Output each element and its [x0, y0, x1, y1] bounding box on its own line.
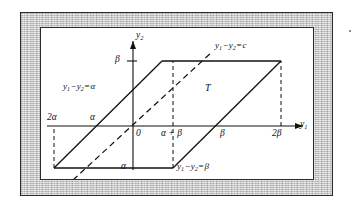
- x-axis-label: y1: [300, 120, 308, 130]
- x-tick-label-beta: β: [220, 129, 225, 139]
- line-y1-minus-y2-equals-beta: [173, 61, 281, 168]
- figure-root: y2 y1 β α 0 2α α α + β β 2β y1−y2=α y1−y…: [0, 0, 354, 212]
- x-tick-label-alpha: α: [90, 113, 95, 123]
- line-y1-minus-y2-equals-alpha: [54, 61, 162, 168]
- equation-label-dashed-line: y1−y2=c: [215, 41, 246, 51]
- figure-plot-panel: y2 y1 β α 0 2α α α + β β 2β y1−y2=α y1−y…: [40, 27, 314, 180]
- plot-canvas: [41, 28, 313, 179]
- y-axis-label: y2: [136, 31, 144, 41]
- y-axis-arrowhead: [130, 41, 136, 49]
- region-label-T: T: [205, 83, 211, 93]
- x-tick-label-two-beta: 2β: [272, 129, 281, 139]
- y-tick-label-alpha: α: [121, 162, 126, 172]
- equation-label-lower-line: y1−y2=β: [177, 162, 209, 172]
- page-speck: [349, 30, 351, 32]
- origin-label: 0: [136, 129, 141, 139]
- x-tick-label-alpha-plus-beta: α + β: [161, 129, 182, 139]
- x-tick-label-two-alpha: 2α: [47, 113, 57, 123]
- equation-label-upper-line: y1−y2=α: [63, 82, 95, 92]
- y-tick-label-beta: β: [115, 55, 120, 65]
